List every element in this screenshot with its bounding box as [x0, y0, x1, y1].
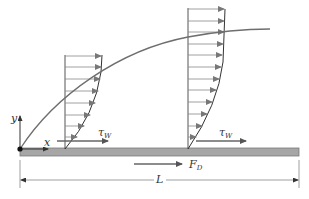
upstream-velocity-profile [65, 55, 102, 149]
y-axis-label: y [11, 113, 17, 124]
length-label: L [156, 174, 163, 185]
force-symbol: F [189, 158, 197, 171]
origin-dot [17, 146, 22, 151]
tau-subscript: W [225, 132, 232, 140]
drag-force-label: FD [189, 159, 202, 172]
tau-subscript: W [104, 132, 111, 140]
force-subscript: D [197, 164, 203, 172]
flat-plate-boundary-layer-diagram [0, 0, 309, 199]
wall-shear-label-1: τW [98, 127, 111, 140]
flat-plate [20, 148, 299, 156]
boundary-layer-edge-curve [20, 29, 270, 149]
wall-shear-label-2: τW [219, 127, 232, 140]
x-axis-label: x [44, 137, 50, 148]
